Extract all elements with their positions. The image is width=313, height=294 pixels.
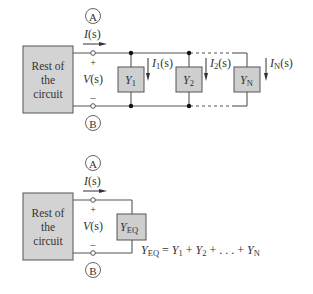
node-a-label: A bbox=[89, 158, 97, 170]
i2-label: I2(s) bbox=[209, 56, 231, 71]
junction-node bbox=[187, 104, 191, 108]
parallel-admittance-diagram: Rest of the circuit A B I(s) + V(s) – bbox=[0, 0, 313, 294]
block-text-line1: Rest of bbox=[32, 60, 65, 72]
block-text-line2: the bbox=[41, 74, 55, 86]
terminal-a bbox=[91, 198, 96, 203]
block-text-line3: circuit bbox=[33, 88, 63, 100]
node-b-label: B bbox=[89, 265, 96, 277]
i1-arrow-icon bbox=[146, 73, 150, 81]
i1-label: I1(s) bbox=[151, 56, 173, 71]
node-a-label: A bbox=[89, 11, 97, 23]
yeq-equation: YEQ = Y1 + Y2 + . . . + YN bbox=[141, 243, 260, 258]
terminal-b bbox=[91, 104, 96, 109]
terminal-a bbox=[91, 51, 96, 56]
plus-sign: + bbox=[90, 57, 96, 68]
current-label: I(s) bbox=[83, 174, 101, 188]
current-arrow-icon bbox=[99, 189, 107, 193]
block-text-line3: circuit bbox=[33, 235, 63, 247]
block-text-line1: Rest of bbox=[32, 207, 65, 219]
plus-sign: + bbox=[90, 204, 96, 215]
bottom-circuit: Rest of the circuit A B I(s) + V(s) – YE… bbox=[23, 156, 260, 278]
junction-node bbox=[129, 51, 133, 55]
current-label: I(s) bbox=[83, 27, 101, 41]
junction-node bbox=[187, 51, 191, 55]
terminal-b bbox=[91, 251, 96, 256]
branch-y2: Y2 I2(s) bbox=[176, 51, 231, 108]
branch-y1: Y1 I1(s) bbox=[118, 51, 173, 108]
in-label: IN(s) bbox=[269, 56, 293, 71]
block-text-line2: the bbox=[41, 221, 55, 233]
i2-arrow-icon bbox=[204, 73, 208, 81]
branch-yn: YN IN(s) bbox=[234, 53, 293, 106]
top-circuit: Rest of the circuit A B I(s) + V(s) – bbox=[23, 9, 293, 131]
voltage-label: V(s) bbox=[83, 72, 103, 86]
minus-sign: – bbox=[90, 92, 97, 103]
node-b-label: B bbox=[89, 118, 96, 130]
in-arrow-icon bbox=[264, 73, 268, 81]
junction-node bbox=[129, 104, 133, 108]
minus-sign: – bbox=[90, 239, 97, 250]
current-arrow-icon bbox=[99, 42, 107, 46]
voltage-label: V(s) bbox=[83, 219, 103, 233]
